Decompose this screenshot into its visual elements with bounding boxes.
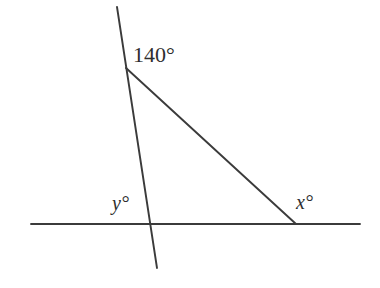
geometry-canvas <box>0 0 380 288</box>
angle-x-label: x° <box>296 192 313 212</box>
angle-y-label: y° <box>112 193 129 213</box>
diagonal-hypotenuse-segment <box>126 68 296 224</box>
vertex-angle-label: 140° <box>133 44 175 66</box>
geometry-diagram: 140° y° x° <box>0 0 380 288</box>
